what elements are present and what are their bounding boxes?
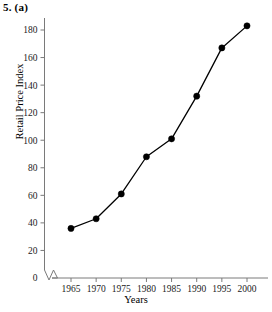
x-tick-label: 1975	[112, 284, 131, 294]
y-tick-label: 140	[23, 81, 38, 91]
data-point-marker	[244, 23, 250, 29]
data-series	[68, 23, 250, 232]
y-tick-label: 80	[28, 163, 38, 173]
data-point-marker	[68, 225, 74, 231]
figure-panel: 5. (a) Retail Price Index Years 02040608…	[0, 0, 272, 312]
y-tick-label: 40	[28, 218, 38, 228]
y-tick-label: 100	[23, 136, 38, 146]
y-tick-group: 020406080100120140160180	[23, 25, 44, 283]
x-tick-group: 19651970197519801985199019952000	[62, 278, 257, 294]
data-point-marker	[219, 45, 225, 51]
x-tick-label: 1995	[212, 284, 231, 294]
y-tick-label: 20	[28, 246, 38, 256]
data-point-marker	[93, 216, 99, 222]
line-chart: 020406080100120140160180 196519701975198…	[0, 0, 272, 312]
series-line	[71, 26, 247, 229]
x-tick-label: 1990	[187, 284, 206, 294]
data-point-marker	[118, 191, 124, 197]
data-point-marker	[194, 93, 200, 99]
x-tick-label: 1980	[137, 284, 156, 294]
y-tick-label: 60	[28, 191, 38, 201]
x-tick-label: 1985	[162, 284, 181, 294]
x-tick-label: 1965	[62, 284, 81, 294]
data-point-marker	[143, 154, 149, 160]
y-tick-label: 120	[23, 108, 38, 118]
x-tick-label: 2000	[238, 284, 257, 294]
y-tick-label: 160	[23, 53, 38, 63]
x-tick-label: 1970	[87, 284, 106, 294]
y-tick-label: 180	[23, 25, 38, 35]
data-point-marker	[168, 136, 174, 142]
y-tick-label: 0	[33, 273, 38, 283]
